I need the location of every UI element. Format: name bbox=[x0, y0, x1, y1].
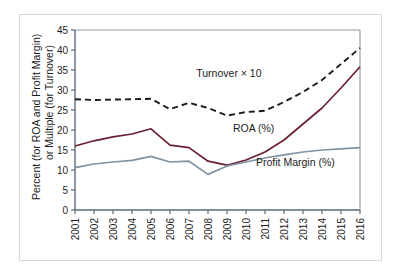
turnover-line bbox=[75, 48, 360, 116]
series-label-profit-margin: Profit Margin (%) bbox=[256, 156, 335, 168]
x-tick-label: 2009 bbox=[222, 218, 233, 241]
y-tick-label: 25 bbox=[57, 105, 69, 116]
x-axis-ticks: 2001200220032004200520062007200820092010… bbox=[70, 210, 366, 240]
x-tick-label: 2016 bbox=[355, 218, 366, 241]
x-tick-label: 2007 bbox=[184, 218, 195, 241]
x-tick-label: 2003 bbox=[108, 218, 119, 241]
y-axis-title-line1: Percent (for ROA and Profit Margin) bbox=[30, 34, 42, 200]
plot-axes bbox=[75, 30, 360, 210]
x-tick-label: 2001 bbox=[70, 218, 81, 241]
y-axis-ticks: 051015202530354045 bbox=[57, 25, 75, 216]
y-tick-label: 20 bbox=[57, 125, 69, 136]
x-tick-label: 2006 bbox=[165, 218, 176, 241]
x-tick-label: 2002 bbox=[89, 218, 100, 241]
x-tick-label: 2011 bbox=[260, 218, 271, 240]
x-tick-label: 2013 bbox=[298, 218, 309, 241]
x-tick-label: 2004 bbox=[127, 218, 138, 241]
figure-root: Percent (for ROA and Profit Margin) or M… bbox=[0, 0, 394, 274]
x-tick-label: 2005 bbox=[146, 218, 157, 241]
y-tick-label: 5 bbox=[62, 185, 68, 196]
y-tick-label: 45 bbox=[57, 25, 69, 36]
x-tick-label: 2015 bbox=[336, 218, 347, 241]
x-tick-label: 2014 bbox=[317, 218, 328, 241]
y-tick-label: 10 bbox=[57, 165, 69, 176]
y-axis-title: Percent (for ROA and Profit Margin) or M… bbox=[30, 34, 55, 200]
y-axis-title-line2: or Multiple (for Turnover) bbox=[43, 45, 55, 160]
y-tick-label: 30 bbox=[57, 85, 69, 96]
series-label-roa: ROA (%) bbox=[233, 122, 274, 134]
y-tick-label: 0 bbox=[62, 205, 68, 216]
x-tick-label: 2010 bbox=[241, 218, 252, 241]
line-chart: Percent (for ROA and Profit Margin) or M… bbox=[0, 0, 394, 274]
y-tick-label: 40 bbox=[57, 45, 69, 56]
y-tick-label: 15 bbox=[57, 145, 69, 156]
x-tick-label: 2012 bbox=[279, 218, 290, 241]
y-tick-label: 35 bbox=[57, 65, 69, 76]
x-tick-label: 2008 bbox=[203, 218, 214, 241]
series-label-turnover: Turnover × 10 bbox=[196, 67, 261, 79]
